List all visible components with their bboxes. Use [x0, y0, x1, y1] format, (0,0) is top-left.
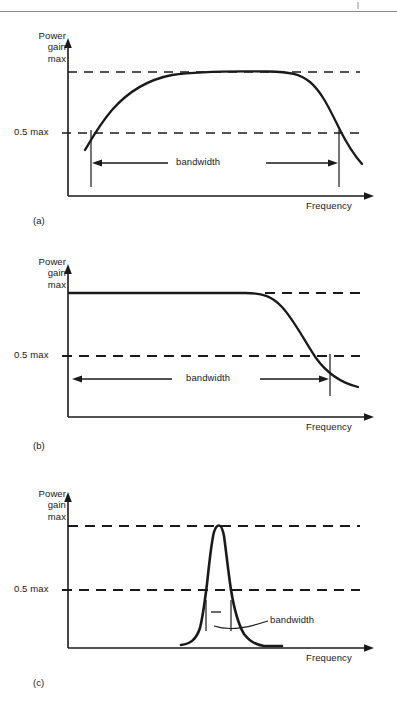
- response-curve: [85, 71, 362, 164]
- x-axis-arrowhead: [364, 413, 374, 421]
- bandwidth-label: bandwidth: [270, 614, 314, 625]
- figure-low-pass-response: Power gain max 0.5 max bandwidth Frequen…: [0, 244, 397, 462]
- y-axis-title: Power gain max: [18, 488, 66, 522]
- x-axis-title: Frequency: [306, 421, 352, 432]
- y-axis-title: Power gain max: [18, 256, 66, 290]
- x-axis-arrowhead: [364, 644, 374, 652]
- bandwidth-label: bandwidth: [186, 372, 230, 383]
- half-max-label: 0.5 max: [14, 349, 49, 360]
- axes: [68, 46, 366, 196]
- bandwidth-label: bandwidth: [176, 156, 220, 167]
- bandwidth-arrow-left: [72, 376, 172, 383]
- figure-caption-a: (a): [33, 215, 45, 226]
- axes: [68, 500, 366, 648]
- y-axis-title: Power gain max: [18, 30, 66, 64]
- figure-caption-b: (b): [33, 440, 45, 451]
- half-max-label: 0.5 max: [14, 583, 49, 594]
- page-top-mark: [357, 2, 359, 9]
- bandwidth-arrow-right: [260, 376, 329, 383]
- half-max-label: 0.5 max: [14, 126, 49, 137]
- page-top-rule: [0, 11, 397, 12]
- bandwidth-arrow-right: [266, 160, 338, 167]
- x-axis-title: Frequency: [306, 200, 352, 211]
- figure-narrow-band-pass-response: Power gain max 0.5 max bandwidth Frequen…: [0, 466, 397, 696]
- x-axis-arrowhead: [364, 192, 374, 200]
- x-axis-title: Frequency: [306, 652, 352, 663]
- bandwidth-arrow-left: [92, 160, 168, 167]
- figure-caption-c: (c): [33, 677, 44, 688]
- figure-band-pass-response: Power gain max 0.5 max bandwidth Frequen…: [0, 14, 397, 234]
